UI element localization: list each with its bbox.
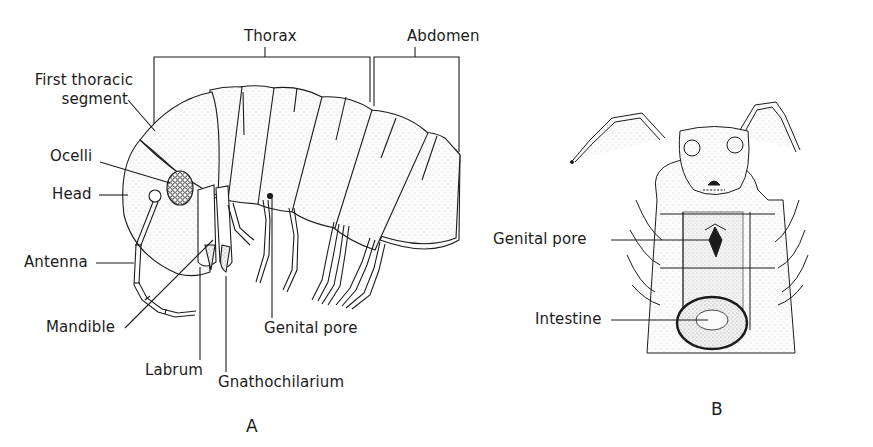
panel-label-a: A xyxy=(246,416,258,436)
label-first-thoracic-segment-line1: First thoracic xyxy=(22,72,133,89)
label-genital-pore-b: Genital pore xyxy=(493,231,587,248)
label-head: Head xyxy=(52,186,92,203)
panel-label-b: B xyxy=(711,399,723,419)
label-mandible: Mandible xyxy=(46,319,115,336)
ocelli-cluster xyxy=(167,171,193,205)
leader-first-thoracic xyxy=(128,100,155,131)
label-thorax: Thorax xyxy=(244,28,297,45)
label-gnathochilarium: Gnathochilarium xyxy=(218,374,344,391)
label-antenna: Antenna xyxy=(24,254,88,271)
label-genital-pore-a: Genital pore xyxy=(264,320,358,337)
label-intestine: Intestine xyxy=(535,311,602,328)
label-first-thoracic-segment-line2: segment xyxy=(22,91,128,108)
antenna-left xyxy=(573,113,665,160)
label-labrum: Labrum xyxy=(145,362,203,379)
label-ocelli: Ocelli xyxy=(50,148,92,165)
diagram-canvas xyxy=(0,0,873,447)
millipede-ventral-view xyxy=(571,102,809,353)
genital-pore-dot xyxy=(268,194,273,199)
label-abdomen: Abdomen xyxy=(407,28,480,45)
